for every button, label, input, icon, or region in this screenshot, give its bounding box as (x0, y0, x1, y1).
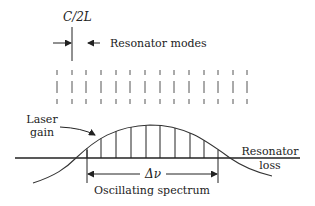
resonator-modes-label: Resonator modes (110, 37, 207, 50)
mode-spacing-indicator (53, 27, 100, 61)
bandwidth-label: Δν (144, 167, 161, 181)
laser-gain-label-line2: gain (30, 126, 54, 139)
resonator-loss-label-line1: Resonator (241, 145, 299, 158)
gain-pointer-arrow-icon (60, 127, 95, 135)
spacing-label: C/2L (63, 10, 92, 24)
laser-mode-diagram: C/2L Resonator modes Laser gain Resonato… (0, 0, 315, 206)
laser-gain-label-line1: Laser (26, 113, 58, 126)
resonator-loss-label-line2: loss (259, 159, 281, 172)
oscillating-spectrum-label: Oscillating spectrum (94, 184, 211, 197)
resonator-mode-comb (57, 70, 247, 104)
oscillating-modes (87, 125, 204, 158)
